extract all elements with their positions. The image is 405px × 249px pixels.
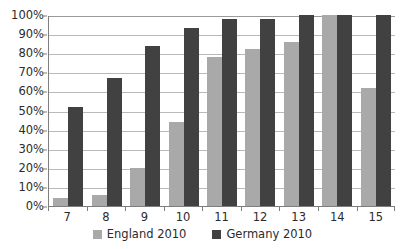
x-axis-tick: 10	[164, 207, 203, 227]
legend-entry[interactable]: England 2010	[93, 229, 187, 241]
bar	[260, 19, 275, 206]
y-axis-tick-label: 100%	[0, 10, 44, 22]
bar	[107, 78, 122, 206]
x-axis-tick-label: 14	[318, 212, 357, 224]
legend-swatch-icon	[93, 230, 102, 239]
legend-label: England 2010	[107, 229, 187, 241]
y-axis-tick-mark	[42, 130, 47, 131]
bar	[376, 15, 391, 206]
bar	[207, 57, 222, 206]
x-axis-tick-label: 15	[357, 212, 396, 224]
x-axis: 789101112131415	[48, 207, 395, 227]
x-axis-tick-mark	[357, 207, 358, 211]
bar	[53, 198, 68, 206]
y-axis-tick-label: 70%	[0, 68, 44, 80]
x-axis-tick-mark	[318, 207, 319, 211]
x-axis-tick-label: 9	[125, 212, 164, 224]
x-axis-tick-mark	[125, 207, 126, 211]
chart-legend: England 2010Germany 2010	[0, 229, 405, 241]
legend-label: Germany 2010	[226, 229, 312, 241]
y-axis-tick-mark	[42, 111, 47, 112]
bar	[337, 15, 352, 206]
legend-entry[interactable]: Germany 2010	[212, 229, 312, 241]
y-axis-tick-label: 0%	[0, 201, 44, 213]
bar	[184, 28, 199, 206]
bar-chart: 0%10%20%30%40%50%60%70%80%90%100% 789101…	[0, 0, 405, 249]
x-axis-tick-label: 10	[164, 212, 203, 224]
bar	[299, 15, 314, 206]
x-axis-tick-mark	[87, 207, 88, 211]
x-axis-tick-mark	[279, 207, 280, 211]
bar-group	[203, 16, 241, 206]
x-axis-tick-label: 7	[48, 212, 87, 224]
x-axis-tick-label: 8	[87, 212, 126, 224]
y-axis-tick-label: 50%	[0, 106, 44, 118]
bar	[322, 15, 337, 206]
x-axis-tick: 14	[318, 207, 357, 227]
x-axis-tick: 8	[87, 207, 126, 227]
y-axis-tick-label: 90%	[0, 29, 44, 41]
y-axis-tick-mark	[42, 187, 47, 188]
y-axis-tick-mark	[42, 16, 47, 17]
plot-area	[48, 16, 395, 207]
y-axis-tick-mark	[42, 168, 47, 169]
bar	[284, 42, 299, 206]
x-axis-tick: 9	[125, 207, 164, 227]
bar-group	[318, 16, 356, 206]
y-axis-tick-mark	[42, 149, 47, 150]
x-axis-tick-mark	[241, 207, 242, 211]
y-axis: 0%10%20%30%40%50%60%70%80%90%100%	[0, 16, 44, 207]
x-axis-tick-mark	[164, 207, 165, 211]
x-axis-tick-label: 11	[202, 212, 241, 224]
y-axis-tick-mark	[42, 35, 47, 36]
bar-group	[280, 16, 318, 206]
x-axis-tick-mark	[48, 207, 49, 211]
x-axis-tick: 13	[279, 207, 318, 227]
y-axis-tick-label: 30%	[0, 144, 44, 156]
bar-group	[357, 16, 395, 206]
y-axis-tick-label: 20%	[0, 163, 44, 175]
x-axis-end-tick	[394, 207, 395, 211]
x-axis-tick-mark	[202, 207, 203, 211]
bar	[169, 122, 184, 206]
bar	[222, 19, 237, 206]
y-axis-tick-label: 80%	[0, 48, 44, 60]
bar	[145, 46, 160, 206]
bar	[68, 107, 83, 206]
y-axis-tick-mark	[42, 92, 47, 93]
bar-group	[49, 16, 87, 206]
bar	[130, 168, 145, 206]
bars-layer	[49, 16, 395, 206]
y-axis-tick-label: 40%	[0, 125, 44, 137]
bar	[361, 88, 376, 206]
x-axis-tick: 15	[357, 207, 396, 227]
y-axis-tick-label: 10%	[0, 182, 44, 194]
bar-group	[241, 16, 279, 206]
legend-swatch-icon	[212, 230, 221, 239]
x-axis-tick: 11	[202, 207, 241, 227]
bar-group	[164, 16, 202, 206]
bar	[92, 195, 107, 206]
y-axis-tick-label: 60%	[0, 87, 44, 99]
x-axis-tick-label: 12	[241, 212, 280, 224]
x-axis-tick: 12	[241, 207, 280, 227]
y-axis-tick-mark	[42, 54, 47, 55]
bar-group	[126, 16, 164, 206]
bar-group	[87, 16, 125, 206]
bar	[245, 49, 260, 206]
x-axis-tick-label: 13	[279, 212, 318, 224]
y-axis-tick-mark	[42, 73, 47, 74]
x-axis-tick: 7	[48, 207, 87, 227]
y-axis-tick-mark	[42, 207, 47, 208]
